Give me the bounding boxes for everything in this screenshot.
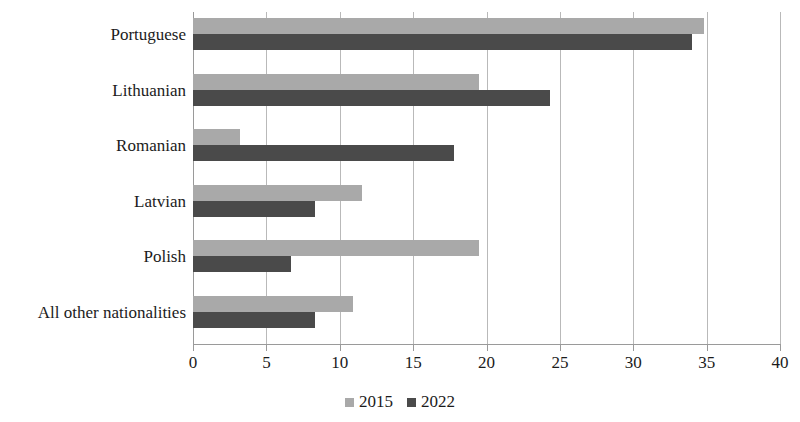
chart-legend: 20152022 bbox=[0, 392, 800, 412]
grouped-bar-chart: PortugueseLithuanianRomanianLatvianPolis… bbox=[0, 0, 800, 422]
x-tick-mark-10 bbox=[340, 345, 341, 351]
x-tick-mark-20 bbox=[487, 345, 488, 351]
x-tick-mark-35 bbox=[707, 345, 708, 351]
x-tick-label: 25 bbox=[540, 353, 580, 373]
bar-2022 bbox=[193, 90, 550, 106]
x-tick-label: 30 bbox=[613, 353, 653, 373]
bar-2015 bbox=[193, 74, 479, 90]
category-label: All other nationalities bbox=[4, 303, 186, 323]
x-tick-mark-40 bbox=[780, 345, 781, 351]
bar-2022 bbox=[193, 256, 291, 272]
x-tick-label: 20 bbox=[467, 353, 507, 373]
legend-swatch-icon bbox=[345, 398, 354, 407]
bar-group bbox=[193, 12, 780, 68]
gridline-40 bbox=[780, 12, 781, 345]
bar-group bbox=[193, 234, 780, 290]
x-tick-label: 0 bbox=[173, 353, 213, 373]
bar-2022 bbox=[193, 34, 692, 50]
x-tick-mark-5 bbox=[266, 345, 267, 351]
bar-2015 bbox=[193, 296, 353, 312]
x-tick-label: 15 bbox=[393, 353, 433, 373]
x-tick-label: 10 bbox=[320, 353, 360, 373]
x-tick-mark-25 bbox=[560, 345, 561, 351]
legend-item-2022[interactable]: 2022 bbox=[407, 392, 455, 412]
category-label: Latvian bbox=[4, 192, 186, 212]
legend-swatch-icon bbox=[407, 398, 416, 407]
x-tick-label: 35 bbox=[687, 353, 727, 373]
bar-group bbox=[193, 68, 780, 124]
bar-group bbox=[193, 179, 780, 235]
bar-2015 bbox=[193, 185, 362, 201]
legend-item-2015[interactable]: 2015 bbox=[345, 392, 393, 412]
legend-label: 2015 bbox=[359, 392, 393, 412]
bar-2022 bbox=[193, 201, 315, 217]
x-tick-label: 40 bbox=[760, 353, 800, 373]
bar-2015 bbox=[193, 129, 240, 145]
x-tick-label: 5 bbox=[246, 353, 286, 373]
bar-2015 bbox=[193, 18, 704, 34]
bar-group bbox=[193, 290, 780, 346]
bar-2022 bbox=[193, 145, 454, 161]
category-label: Lithuanian bbox=[4, 81, 186, 101]
legend-label: 2022 bbox=[421, 392, 455, 412]
category-label: Polish bbox=[4, 247, 186, 267]
category-label: Portuguese bbox=[4, 25, 186, 45]
x-tick-mark-0 bbox=[193, 345, 194, 351]
x-tick-mark-15 bbox=[413, 345, 414, 351]
category-label: Romanian bbox=[4, 136, 186, 156]
bar-2015 bbox=[193, 240, 479, 256]
bar-group bbox=[193, 123, 780, 179]
x-tick-mark-30 bbox=[633, 345, 634, 351]
y-axis-category-labels: PortugueseLithuanianRomanianLatvianPolis… bbox=[0, 12, 186, 345]
plot-area bbox=[193, 12, 780, 345]
bar-2022 bbox=[193, 312, 315, 328]
